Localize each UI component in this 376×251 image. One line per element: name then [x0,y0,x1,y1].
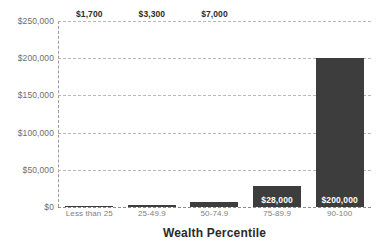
y-axis-tick-label: $100,000 [0,128,54,138]
y-axis-tick-labels: $250,000 $200,000 $150,000 $100,000 $50,… [0,21,54,207]
table-row[interactable]: $28,000 [253,186,301,207]
bar-value-label: $1,700 [76,9,103,19]
x-axis-tick-label: 75-89.9 [246,209,309,218]
bar-value-label: $3,300 [139,9,166,19]
table-row[interactable]: $200,000 [316,58,364,207]
bar-value-label: $28,000 [261,195,292,205]
x-axis-tick-label: 90-100 [308,209,371,218]
y-axis-tick-label: $0 [0,202,54,212]
y-axis-tick-label: $150,000 [0,90,54,100]
bar-slot: $3,300 [121,21,184,207]
x-axis-title: Wealth Percentile [58,226,371,240]
bar-value-label: $200,000 [322,195,358,205]
bar-slot: $7,000 [183,21,246,207]
x-axis-tick-label: Less than 25 [58,209,121,218]
bar-chart: $250,000 $200,000 $150,000 $100,000 $50,… [0,0,376,251]
gridline-zero-baseline [58,207,371,208]
bar-slot: $1,700 [58,21,121,207]
y-axis-tick-label: $200,000 [0,53,54,63]
bar-slot: $28,000 [246,21,309,207]
y-axis-tick-label: $50,000 [0,165,54,175]
y-axis-tick-label: $250,000 [0,16,54,26]
bar-value-label: $7,000 [201,9,228,19]
table-row[interactable] [128,205,176,207]
bar-series: $1,700 $3,300 $7,000 $28,000 $200,000 [58,21,371,207]
x-axis-tick-labels: Less than 25 25-49.9 50-74.9 75-89.9 90-… [58,209,371,218]
bar-slot: $200,000 [308,21,371,207]
table-row[interactable] [190,202,238,207]
x-axis-tick-label: 25-49.9 [121,209,184,218]
table-row[interactable] [65,206,113,207]
x-axis-tick-label: 50-74.9 [183,209,246,218]
plot-area: $1,700 $3,300 $7,000 $28,000 $200,000 [58,21,371,207]
